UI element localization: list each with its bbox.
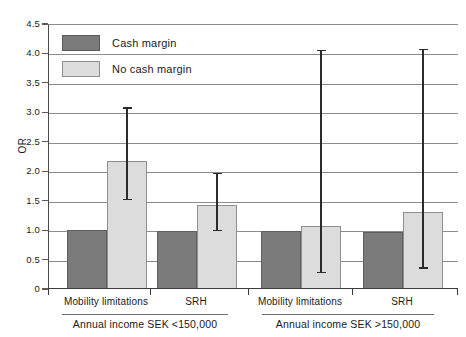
error-bar-cap-upper	[123, 107, 132, 108]
bar-cash-margin	[67, 230, 107, 289]
group-label: Annual income SEK >150,000	[262, 318, 434, 330]
y-axis-tick	[42, 141, 48, 142]
y-axis-tick	[42, 259, 48, 260]
error-bar-cap-upper	[419, 49, 428, 50]
error-bar	[209, 173, 225, 231]
error-bar-stem	[422, 49, 423, 269]
error-bar-cap-upper	[317, 50, 326, 51]
y-axis-tick-label: 2.5	[14, 137, 40, 147]
error-bar-cap-lower	[317, 272, 326, 273]
group-label: Annual income SEK <150,000	[62, 318, 228, 330]
y-axis-tick-label: 3.5	[14, 78, 40, 88]
x-axis-tick	[48, 289, 49, 295]
x-axis-category-label: SRH	[332, 296, 466, 307]
bar-cash-margin	[363, 232, 403, 289]
gridline	[49, 113, 458, 114]
chart-legend: Cash marginNo cash margin	[62, 30, 192, 82]
y-axis-tick-label: 2.0	[14, 166, 40, 176]
group-underline	[62, 314, 228, 315]
y-axis-tick	[42, 82, 48, 83]
error-bar	[119, 107, 135, 200]
bar-cash-margin	[261, 231, 301, 289]
legend-label: No cash margin	[112, 63, 192, 75]
y-axis-tick-label: 1.5	[14, 196, 40, 206]
or-bar-chart-figure: OR 4.54.03.53.02.52.01.51.00.50 Cash mar…	[0, 0, 466, 337]
y-axis-tick	[42, 53, 48, 54]
y-axis-tick-label: 4.5	[14, 19, 40, 29]
legend-swatch-nocash	[62, 61, 100, 77]
error-bar	[313, 50, 329, 273]
x-axis-tick	[150, 289, 151, 295]
error-bar-stem	[126, 107, 127, 200]
x-axis-tick	[248, 289, 249, 295]
y-axis-tick-label: 4.0	[14, 48, 40, 58]
y-axis-tick	[42, 23, 48, 24]
error-bar	[415, 49, 431, 269]
y-axis-tick-label: 0	[14, 284, 40, 294]
legend-swatch-cash	[62, 35, 100, 51]
error-bar-cap-lower	[123, 199, 132, 200]
error-bar-cap-upper	[213, 173, 222, 174]
y-axis-tick	[42, 200, 48, 201]
legend-item: Cash margin	[62, 30, 192, 56]
y-axis-tick	[42, 171, 48, 172]
legend-label: Cash margin	[112, 37, 177, 49]
error-bar-stem	[216, 173, 217, 231]
y-axis-tick-label: 3.0	[14, 107, 40, 117]
x-axis-tick	[457, 289, 458, 295]
error-bar-cap-lower	[419, 267, 428, 268]
x-axis-tick	[352, 289, 353, 295]
y-axis-tick-labels: 4.54.03.53.02.52.01.51.00.50	[14, 0, 40, 337]
group-underline	[262, 314, 434, 315]
legend-item: No cash margin	[62, 56, 192, 82]
bar-cash-margin	[157, 231, 197, 289]
gridline	[49, 143, 458, 144]
error-bar-cap-lower	[213, 230, 222, 231]
y-axis-tick-label: 0.5	[14, 255, 40, 265]
y-axis-tick	[42, 230, 48, 231]
x-axis-line	[48, 288, 458, 289]
y-axis-tick-label: 1.0	[14, 225, 40, 235]
error-bar-stem	[320, 50, 321, 273]
y-axis-tick	[42, 112, 48, 113]
gridline	[49, 84, 458, 85]
